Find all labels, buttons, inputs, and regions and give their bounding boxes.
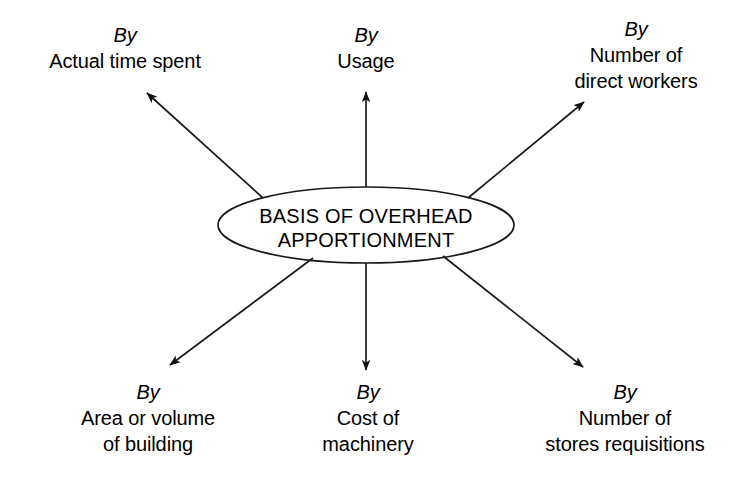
label-cost-of-machinery: By Cost of machinery: [298, 379, 438, 457]
center-node-line2: APPORTIONMENT: [278, 229, 455, 251]
label-line: Cost of: [298, 405, 438, 431]
by-prefix: By: [515, 379, 735, 405]
arrow-actual-time-spent: [147, 93, 263, 198]
label-line: direct workers: [541, 68, 731, 94]
label-line: of building: [46, 431, 250, 457]
by-prefix: By: [298, 379, 438, 405]
label-line: Actual time spent: [10, 48, 240, 74]
label-area-or-volume-of-building: By Area or volume of building: [46, 379, 250, 457]
label-number-of-stores-requisitions: By Number of stores requisitions: [515, 379, 735, 457]
label-usage: By Usage: [296, 22, 436, 74]
overhead-apportionment-diagram: BASIS OF OVERHEAD APPORTIONMENT By Actua…: [0, 0, 738, 488]
by-prefix: By: [46, 379, 250, 405]
label-line: Usage: [296, 48, 436, 74]
label-line: stores requisitions: [515, 431, 735, 457]
label-line: Number of: [541, 42, 731, 68]
label-actual-time-spent: By Actual time spent: [10, 22, 240, 74]
label-line: Area or volume: [46, 405, 250, 431]
by-prefix: By: [541, 16, 731, 42]
center-node-text: BASIS OF OVERHEAD APPORTIONMENT: [218, 204, 514, 253]
label-line: machinery: [298, 431, 438, 457]
by-prefix: By: [296, 22, 436, 48]
label-line: Number of: [515, 405, 735, 431]
label-number-of-direct-workers: By Number of direct workers: [541, 16, 731, 94]
arrow-number-of-direct-workers: [468, 102, 584, 198]
by-prefix: By: [10, 22, 240, 48]
center-node-line1: BASIS OF OVERHEAD: [259, 205, 472, 227]
arrow-number-of-stores-requisitions: [443, 256, 583, 367]
arrow-area-or-volume-of-building: [170, 258, 313, 365]
